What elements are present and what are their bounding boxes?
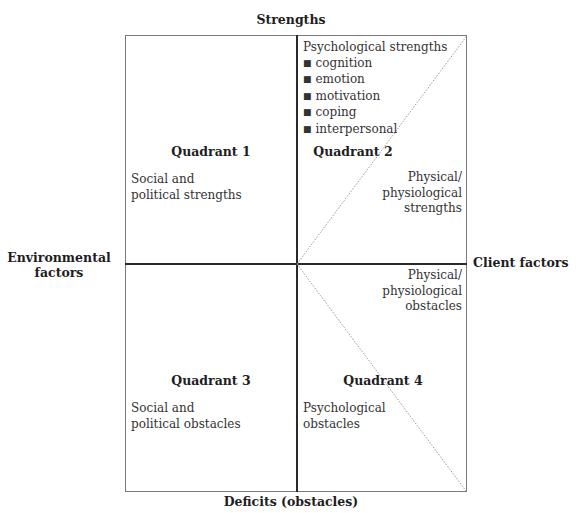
quadrant-2-title: Quadrant 2 — [298, 144, 408, 159]
list-item: cognition — [303, 56, 447, 73]
quadrant-4-physical-obstacles: Physical/ physiological obstacles — [360, 268, 462, 315]
horizontal-axis-divider — [125, 263, 467, 265]
axis-label-line: factors — [0, 265, 118, 280]
quadrant-3-text: Social and political obstacles — [131, 401, 241, 432]
quadrant-4-title: Quadrant 4 — [298, 373, 468, 388]
text-line: Social and — [131, 401, 241, 417]
text-line: political obstacles — [131, 417, 241, 433]
text-line: physiological — [360, 284, 462, 300]
quadrant-1-title: Quadrant 1 — [126, 144, 296, 159]
text-line: Psychological — [303, 401, 386, 417]
quadrant-1-text: Social and political strengths — [131, 172, 242, 203]
psychological-strengths-block: Psychological strengths cognition emotio… — [303, 40, 447, 138]
axis-label-line: Environmental — [0, 250, 118, 265]
text-line: Physical/ — [360, 170, 462, 186]
psychological-strengths-list: cognition emotion motivation coping inte… — [303, 56, 447, 139]
psychological-strengths-header: Psychological strengths — [303, 40, 447, 56]
list-item: motivation — [303, 89, 447, 106]
text-line: Physical/ — [360, 268, 462, 284]
text-line: obstacles — [303, 417, 386, 433]
list-item: emotion — [303, 72, 447, 89]
list-item: interpersonal — [303, 122, 447, 139]
quadrant-3-title: Quadrant 3 — [126, 373, 296, 388]
text-line: strengths — [360, 201, 462, 217]
text-line: obstacles — [360, 299, 462, 315]
quadrant-4-text: Psychological obstacles — [303, 401, 386, 432]
list-item: coping — [303, 105, 447, 122]
text-line: political strengths — [131, 188, 242, 204]
text-line: physiological — [360, 186, 462, 202]
text-line: Social and — [131, 172, 242, 188]
axis-label-strengths: Strengths — [0, 12, 582, 27]
axis-label-environmental-factors: Environmental factors — [0, 250, 118, 280]
quadrant-2-text: Physical/ physiological strengths — [360, 170, 462, 217]
axis-label-client-factors: Client factors — [473, 255, 568, 270]
axis-label-deficits: Deficits (obstacles) — [0, 494, 582, 509]
